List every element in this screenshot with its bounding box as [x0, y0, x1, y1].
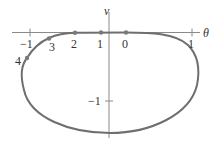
v-axis-label: v	[104, 4, 110, 18]
theta-tick-label-minus-1: −1	[20, 37, 33, 51]
phase-plane-diagram: v θ −1 1 −1 0 1 2 3 4	[0, 0, 223, 144]
point-0	[124, 30, 128, 34]
point-2	[73, 31, 77, 35]
point-label-1: 1	[97, 37, 103, 51]
point-4	[25, 56, 29, 60]
point-label-4: 4	[15, 54, 21, 68]
point-label-0: 0	[122, 37, 128, 51]
v-tick-label-minus-1: −1	[88, 94, 101, 108]
point-label-3: 3	[49, 40, 55, 54]
point-1	[99, 30, 103, 34]
theta-axis-label: θ	[203, 26, 209, 40]
point-label-2: 2	[71, 37, 77, 51]
theta-tick-label-1: 1	[188, 37, 194, 51]
